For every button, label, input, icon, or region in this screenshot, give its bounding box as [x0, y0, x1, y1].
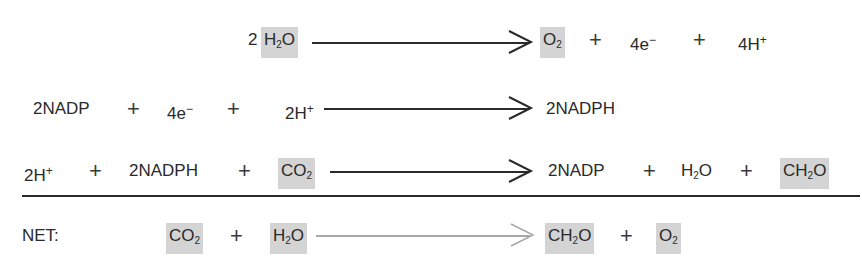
plus-sign: + [589, 29, 602, 51]
symbol: O [291, 226, 304, 245]
net-oxygen: O2 [656, 223, 681, 254]
subscript: 2 [672, 235, 678, 246]
r1-arrow-head-icon [507, 29, 535, 57]
plus-sign: + [620, 225, 633, 247]
symbol: O [578, 226, 591, 245]
symbol: O [659, 226, 672, 245]
r3-protons: 2H+ [24, 160, 53, 187]
subscript: 2 [195, 235, 201, 246]
subscript: 2 [307, 170, 313, 181]
symbol: CH [783, 161, 808, 180]
subscript: 2 [556, 39, 562, 50]
symbol: O [543, 30, 556, 49]
symbol: 4H [738, 35, 760, 54]
plus-sign: + [230, 225, 243, 247]
symbol: 2H [24, 166, 46, 185]
r2-arrow-head-icon [507, 95, 535, 123]
net-carbon-dioxide: CO2 [166, 223, 203, 254]
plus-sign: + [238, 160, 251, 182]
plus-sign: + [89, 160, 102, 182]
r3-water: H2O [681, 160, 712, 187]
net-carbohydrate: CH2O [545, 223, 594, 254]
plus-sign: + [643, 160, 656, 182]
symbol: H [681, 161, 693, 180]
r3-nadph: 2NADPH [129, 160, 198, 182]
symbol: O [699, 161, 712, 180]
r3-carbon-dioxide: CO2 [278, 158, 315, 189]
symbol: CO [281, 161, 307, 180]
symbol: CH [548, 226, 573, 245]
plus-sign: + [227, 98, 240, 120]
superscript: − [649, 33, 656, 47]
symbol: O [282, 30, 295, 49]
net-water: H2O [270, 223, 307, 254]
symbol: 2H [285, 104, 307, 123]
symbol: 4e [167, 104, 186, 123]
r1-water: H2O [261, 27, 298, 58]
superscript: + [307, 102, 314, 116]
r1-protons: 4H+ [738, 29, 767, 56]
sum-divider [22, 195, 860, 197]
symbol: 4e [630, 35, 649, 54]
plus-sign: + [740, 160, 753, 182]
r3-nadp: 2NADP [548, 160, 605, 182]
r1-electrons: 4e− [630, 29, 656, 56]
symbol: O [813, 161, 826, 180]
net-arrow-shaft [316, 235, 530, 237]
symbol: CO [169, 226, 195, 245]
net-label: NET: [22, 225, 59, 247]
superscript: + [760, 33, 767, 47]
r2-electrons: 4e− [167, 98, 193, 125]
symbol: H [264, 30, 276, 49]
superscript: + [46, 164, 53, 178]
r1-oxygen: O2 [540, 27, 565, 58]
r2-arrow-shaft [324, 108, 530, 110]
r2-nadp: 2NADP [33, 98, 90, 120]
r1-arrow-shaft [312, 42, 530, 44]
symbol: H [273, 226, 285, 245]
plus-sign: + [693, 29, 706, 51]
r2-nadph: 2NADPH [546, 98, 615, 120]
r1-coefficient: 2 [248, 29, 257, 51]
r2-protons: 2H+ [285, 98, 314, 125]
r3-arrow-head-icon [507, 158, 535, 186]
r3-arrow-shaft [330, 171, 530, 173]
plus-sign: + [127, 98, 140, 120]
net-arrow-head-icon [509, 222, 537, 250]
superscript: − [186, 102, 193, 116]
r3-carbohydrate: CH2O [780, 158, 829, 189]
